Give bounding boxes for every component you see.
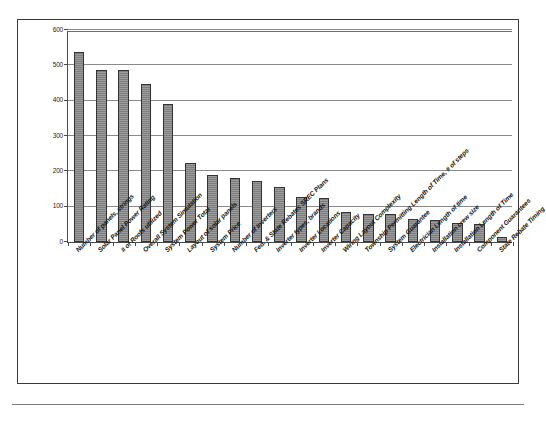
- bar: [497, 237, 508, 242]
- x-axis-tick-mark: [469, 242, 470, 246]
- y-axis-tick-label: 100: [53, 203, 68, 210]
- x-axis-tick-mark: [113, 242, 114, 246]
- y-axis-tick-label: 500: [53, 62, 68, 69]
- x-axis-tick-mark: [335, 242, 336, 246]
- y-axis-tick-mark: [64, 29, 68, 30]
- x-axis-tick-mark: [291, 242, 292, 246]
- bar: [430, 220, 441, 242]
- x-axis-tick-mark: [402, 242, 403, 246]
- x-axis-tick-mark: [446, 242, 447, 246]
- x-axis-tick-mark: [268, 242, 269, 246]
- bar: [230, 178, 241, 242]
- x-axis-tick-mark: [224, 242, 225, 246]
- bar: [185, 163, 196, 242]
- bar: [385, 214, 396, 242]
- x-axis-tick-mark: [90, 242, 91, 246]
- bar: [74, 52, 85, 242]
- x-axis-tick-mark: [246, 242, 247, 246]
- bar: [274, 187, 285, 242]
- y-axis-tick-label: 600: [53, 27, 68, 34]
- gridline: [68, 29, 512, 30]
- x-axis-tick-mark: [179, 242, 180, 246]
- bar: [141, 84, 152, 242]
- x-axis-tick-mark: [157, 242, 158, 246]
- x-axis-tick-mark: [68, 242, 69, 246]
- x-axis-tick-mark: [135, 242, 136, 246]
- bar: [452, 223, 463, 242]
- y-axis-tick-label: 200: [53, 168, 68, 175]
- bar: [363, 214, 374, 242]
- y-axis-tick-label: 400: [53, 97, 68, 104]
- bar: [474, 224, 485, 242]
- bar: [118, 70, 129, 242]
- x-axis-tick-mark: [424, 242, 425, 246]
- x-axis-tick-mark: [357, 242, 358, 246]
- bar: [319, 198, 330, 242]
- x-axis-tick-mark: [380, 242, 381, 246]
- bar: [296, 197, 307, 242]
- bar: [341, 212, 352, 242]
- x-axis-tick-mark: [491, 242, 492, 246]
- x-axis-tick-mark: [513, 242, 514, 246]
- bar-series: [68, 32, 512, 242]
- bar: [207, 175, 218, 242]
- bar: [252, 181, 263, 242]
- plot-area: 0100200300400500600: [67, 31, 512, 243]
- bar: [163, 104, 174, 242]
- x-axis-tick-mark: [313, 242, 314, 246]
- bar: [96, 70, 107, 242]
- y-axis-tick-label: 0: [60, 239, 68, 246]
- bar: [408, 219, 419, 242]
- x-axis-tick-mark: [202, 242, 203, 246]
- y-axis-tick-label: 300: [53, 133, 68, 140]
